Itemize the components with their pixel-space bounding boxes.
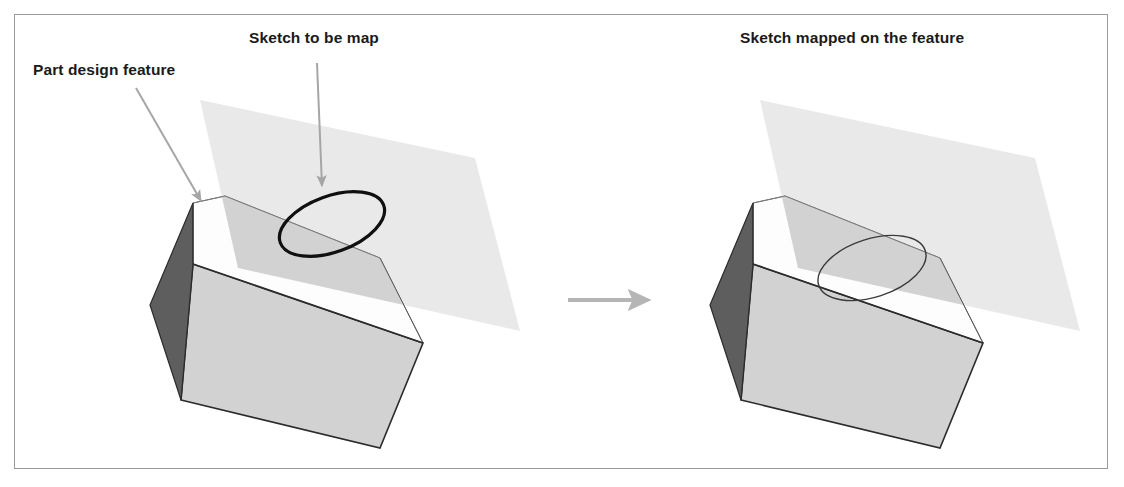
left-panel-before-mapping — [136, 63, 520, 448]
label-part-design-feature: Part design feature — [33, 61, 175, 79]
right-panel-after-mapping — [710, 100, 1080, 448]
label-sketch-mapped-on-feature: Sketch mapped on the feature — [740, 29, 964, 47]
figure-root: Part design feature Sketch to be map Ske… — [0, 0, 1124, 487]
label-sketch-to-be-map: Sketch to be map — [249, 29, 379, 47]
callout-arrow-part-design-feature — [136, 88, 201, 201]
